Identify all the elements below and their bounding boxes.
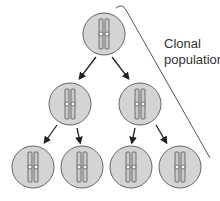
granddaughter-cell bbox=[110, 146, 152, 188]
daughter-cell bbox=[119, 83, 161, 125]
granddaughter-cell bbox=[61, 146, 103, 188]
daughter-cell bbox=[49, 83, 91, 125]
arrow bbox=[77, 128, 80, 142]
arrow bbox=[132, 128, 135, 142]
clonal-population-label: Clonal population bbox=[164, 36, 220, 68]
granddaughter-cell bbox=[12, 146, 54, 188]
label-line-1: Clonal bbox=[164, 36, 220, 52]
granddaughter-cell bbox=[159, 146, 201, 188]
arrow bbox=[156, 125, 166, 142]
arrow bbox=[45, 125, 57, 142]
clonal-diagram bbox=[0, 0, 220, 201]
parent-cell bbox=[83, 13, 125, 55]
arrow bbox=[112, 57, 128, 78]
bracket bbox=[116, 6, 210, 158]
arrow bbox=[80, 57, 96, 78]
label-line-2: population bbox=[164, 52, 220, 68]
